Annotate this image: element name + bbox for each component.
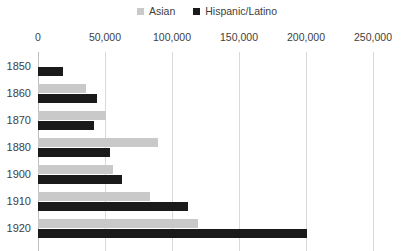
legend-label: Hispanic/Latino bbox=[205, 6, 277, 17]
x-tick-label: 0 bbox=[35, 31, 41, 43]
bar-hispanic-latino[interactable] bbox=[38, 148, 110, 157]
bar-asian[interactable] bbox=[38, 138, 158, 147]
gridline bbox=[373, 52, 374, 251]
bar-asian[interactable] bbox=[38, 165, 113, 174]
x-axis-tick-labels: 050,000100,000150,000200,000250,000 bbox=[0, 31, 414, 47]
bar-hispanic-latino[interactable] bbox=[38, 202, 188, 211]
y-axis-category-label: 1920 bbox=[7, 222, 31, 234]
y-axis-category-label: 1860 bbox=[7, 87, 31, 99]
chart-row: 1910 bbox=[38, 189, 373, 216]
legend-swatch-asian bbox=[137, 8, 144, 15]
legend-label: Asian bbox=[149, 6, 175, 17]
legend-entry-hispanic-latino[interactable]: Hispanic/Latino bbox=[193, 6, 277, 17]
y-axis-category-label: 1910 bbox=[7, 195, 31, 207]
x-tick-label: 250,000 bbox=[354, 31, 392, 43]
x-tick-label: 200,000 bbox=[287, 31, 325, 43]
bar-asian[interactable] bbox=[38, 111, 106, 120]
bar-asian[interactable] bbox=[38, 84, 86, 93]
x-tick-label: 100,000 bbox=[153, 31, 191, 43]
bar-hispanic-latino[interactable] bbox=[38, 229, 307, 238]
chart-row: 1870 bbox=[38, 108, 373, 135]
chart-legend: AsianHispanic/Latino bbox=[0, 6, 414, 17]
x-tick-label: 50,000 bbox=[89, 31, 121, 43]
bar-hispanic-latino[interactable] bbox=[38, 67, 63, 76]
legend-entry-asian[interactable]: Asian bbox=[137, 6, 175, 17]
chart-row: 1900 bbox=[38, 162, 373, 189]
y-axis-category-label: 1850 bbox=[7, 60, 31, 72]
y-axis-category-label: 1870 bbox=[7, 114, 31, 126]
chart-row: 1920 bbox=[38, 216, 373, 243]
bar-asian[interactable] bbox=[38, 219, 198, 228]
y-axis-category-label: 1900 bbox=[7, 168, 31, 180]
bar-hispanic-latino[interactable] bbox=[38, 94, 97, 103]
chart-row: 1860 bbox=[38, 81, 373, 108]
bar-hispanic-latino[interactable] bbox=[38, 175, 122, 184]
y-axis-category-label: 1880 bbox=[7, 141, 31, 153]
plot-area: 1850186018701880190019101920 bbox=[38, 52, 373, 251]
chart-row: 1880 bbox=[38, 135, 373, 162]
bar-asian[interactable] bbox=[38, 192, 150, 201]
bar-hispanic-latino[interactable] bbox=[38, 121, 94, 130]
bar-chart: AsianHispanic/Latino 050,000100,000150,0… bbox=[0, 0, 414, 251]
chart-row: 1850 bbox=[38, 54, 373, 81]
x-tick-label: 150,000 bbox=[220, 31, 258, 43]
legend-swatch-hispanic-latino bbox=[193, 8, 200, 15]
